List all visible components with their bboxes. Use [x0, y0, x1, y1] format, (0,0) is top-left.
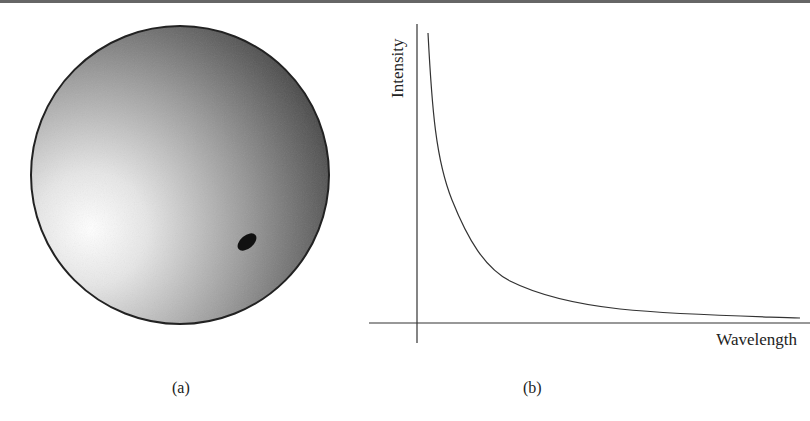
panel-a-sphere: (a): [0, 0, 370, 421]
sphere-illustration: [0, 0, 370, 421]
y-axis-label: Intensity: [388, 38, 407, 98]
panel-b-chart: Intensity Wavelength (b): [360, 0, 810, 421]
x-axis-label: Wavelength: [716, 330, 797, 349]
caption-a: (a): [172, 379, 190, 397]
intensity-curve: [428, 33, 800, 318]
caption-b: (b): [523, 379, 542, 397]
intensity-wavelength-plot: Intensity Wavelength: [360, 0, 810, 421]
